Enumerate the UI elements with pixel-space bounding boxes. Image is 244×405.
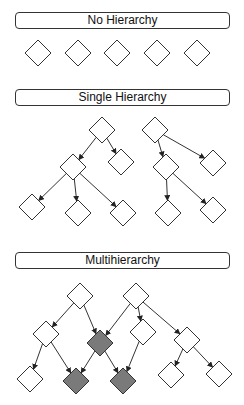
unrelated-node <box>65 40 91 66</box>
multihierarchy-node <box>123 283 149 309</box>
multihierarchy-node <box>158 362 184 388</box>
arrow-edge <box>138 307 141 321</box>
tree-node <box>200 150 226 176</box>
arrow-edge <box>33 344 42 370</box>
tree-node <box>65 200 91 226</box>
arrow-edge <box>127 341 139 372</box>
hierarchy-diagram <box>0 0 244 405</box>
tree-node <box>110 200 136 226</box>
tree-node <box>153 154 179 180</box>
arrow-edge <box>39 173 67 200</box>
tree-node <box>200 197 226 223</box>
shared-node <box>63 368 89 394</box>
arrow-edge <box>74 179 76 202</box>
shared-node <box>110 368 136 394</box>
unrelated-node <box>25 40 51 66</box>
multihierarchy-node <box>67 283 93 309</box>
arrow-edge <box>175 349 183 366</box>
arrow-edge <box>79 137 97 159</box>
unrelated-node <box>104 40 130 66</box>
shared-node <box>87 330 113 356</box>
arrow-edge <box>193 347 212 368</box>
multihierarchy-node <box>130 319 156 345</box>
arrow-edge <box>81 351 95 373</box>
tree-node <box>108 149 134 175</box>
multihierarchy-node <box>33 321 59 347</box>
arrow-edge <box>158 140 163 157</box>
multihierarchy-node <box>17 366 43 392</box>
arrow-edge <box>107 138 116 154</box>
arrow-edge <box>173 173 206 204</box>
arrow-edge <box>163 135 204 159</box>
tree-node <box>142 117 168 143</box>
arrow-edge <box>80 173 116 207</box>
unrelated-node <box>144 40 170 66</box>
arrow-edge <box>106 303 131 335</box>
tree-node <box>89 117 115 143</box>
arrow-edge <box>84 305 96 334</box>
arrow-edge <box>167 179 168 200</box>
unrelated-node <box>184 40 210 66</box>
nodes <box>17 40 232 394</box>
tree-node <box>155 200 181 226</box>
arrow-edge <box>51 342 71 373</box>
arrow-edge <box>52 303 74 327</box>
arrow-edge <box>105 351 118 373</box>
